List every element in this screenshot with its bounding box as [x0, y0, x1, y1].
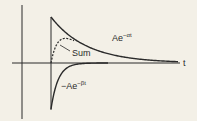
- diagram-canvas: t Ae−αt Sum −Ae−βt: [0, 0, 197, 121]
- sum-curve: [51, 38, 74, 63]
- t-axis-label: t: [183, 58, 186, 68]
- sum-leader-line: [60, 45, 70, 51]
- positive-curve-label: Ae−αt: [112, 32, 132, 43]
- negative-curve-label: −Ae−βt: [61, 80, 86, 91]
- sum-label: Sum: [72, 48, 91, 58]
- negative-exponential-curve: [51, 63, 108, 109]
- diagram: t Ae−αt Sum −Ae−βt: [0, 0, 197, 121]
